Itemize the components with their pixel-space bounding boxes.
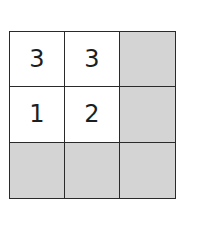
puzzle-grid: 3 3 1 2 xyxy=(9,31,176,199)
cell-r1-c0[interactable]: 1 xyxy=(10,87,65,142)
cell-r1-c2[interactable] xyxy=(120,87,175,142)
cell-r0-c0[interactable]: 3 xyxy=(10,32,65,87)
cell-r1-c1[interactable]: 2 xyxy=(65,87,120,142)
cell-r0-c1[interactable]: 3 xyxy=(65,32,120,87)
cell-r2-c0[interactable] xyxy=(10,143,65,198)
cell-r2-c2[interactable] xyxy=(120,143,175,198)
cell-r2-c1[interactable] xyxy=(65,143,120,198)
cell-r0-c2[interactable] xyxy=(120,32,175,87)
